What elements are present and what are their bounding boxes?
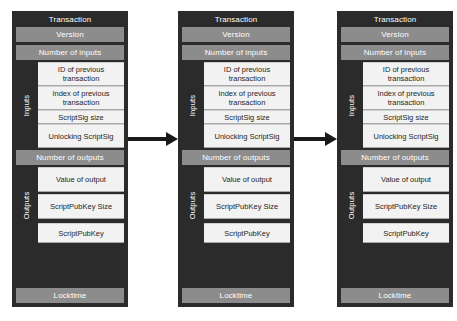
version-field: Version [16,27,124,42]
input-field-unlocking-scriptsig: Unlocking ScriptSig [38,124,124,148]
input-field-id-of-previous-transaction: ID of previous transaction [204,62,290,86]
arrow-shaft [294,137,325,141]
block-spacer [182,243,290,284]
number-of-outputs-field: Number of outputs [182,150,290,165]
arrow-shaft [128,137,166,141]
transaction-title: Transaction [341,14,449,26]
output-fields-list: Value of output ScriptPubKey Size Script… [38,167,124,243]
inputs-side-label: Inputs [341,62,363,148]
input-field-index-of-previous-transaction: Index of previous transaction [363,86,449,110]
input-field-scriptsig-size: ScriptSig size [38,110,124,124]
outputs-side-label-text: Outputs [189,191,198,219]
output-fields-list: Value of output ScriptPubKey Size Script… [204,167,290,243]
output-field-value-of-output: Value of output [38,167,124,192]
inputs-section: Inputs ID of previous transaction Index … [16,62,124,148]
block-spacer [341,243,449,284]
input-field-scriptsig-size: ScriptSig size [363,110,449,124]
inputs-side-label-text: Inputs [188,94,197,116]
output-field-scriptpubkey: ScriptPubKey [363,223,449,243]
transaction-block-2: Transaction Version Number of inputs Inp… [178,11,294,307]
outputs-side-label-text: Outputs [23,191,32,219]
locktime-field: Locktime [182,288,290,303]
number-of-outputs-field: Number of outputs [341,150,449,165]
transaction-block-3: Transaction Version Number of inputs Inp… [337,11,453,307]
transaction-title: Transaction [182,14,290,26]
number-of-inputs-field: Number of inputs [182,45,290,60]
arrow-head-icon [325,132,337,146]
output-fields-list: Value of output ScriptPubKey Size Script… [363,167,449,243]
number-of-inputs-field: Number of inputs [16,45,124,60]
arrow-head-icon [166,132,178,146]
output-field-scriptpubkey: ScriptPubKey [204,223,290,243]
input-field-unlocking-scriptsig: Unlocking ScriptSig [204,124,290,148]
locktime-field: Locktime [16,288,124,303]
version-field: Version [341,27,449,42]
outputs-side-label: Outputs [182,167,204,243]
input-fields-list: ID of previous transaction Index of prev… [363,62,449,148]
input-field-unlocking-scriptsig: Unlocking ScriptSig [363,124,449,148]
inputs-side-label: Inputs [16,62,38,148]
transaction-title: Transaction [16,14,124,26]
version-field: Version [182,27,290,42]
output-field-scriptpubkey-size: ScriptPubKey Size [204,194,290,219]
input-field-index-of-previous-transaction: Index of previous transaction [38,86,124,110]
block-spacer [16,243,124,284]
outputs-section: Outputs Value of output ScriptPubKey Siz… [182,167,290,243]
output-field-scriptpubkey: ScriptPubKey [38,223,124,243]
number-of-outputs-field: Number of outputs [16,150,124,165]
input-field-index-of-previous-transaction: Index of previous transaction [204,86,290,110]
output-field-value-of-output: Value of output [363,167,449,192]
input-field-scriptsig-size: ScriptSig size [204,110,290,124]
input-fields-list: ID of previous transaction Index of prev… [204,62,290,148]
output-field-scriptpubkey-size: ScriptPubKey Size [38,194,124,219]
arrow-block1-to-block2 [128,132,178,146]
inputs-side-label: Inputs [182,62,204,148]
number-of-inputs-field: Number of inputs [341,45,449,60]
outputs-side-label: Outputs [341,167,363,243]
arrow-block2-to-block3 [294,132,337,146]
outputs-side-label: Outputs [16,167,38,243]
input-field-id-of-previous-transaction: ID of previous transaction [38,62,124,86]
outputs-section: Outputs Value of output ScriptPubKey Siz… [341,167,449,243]
inputs-section: Inputs ID of previous transaction Index … [182,62,290,148]
input-field-id-of-previous-transaction: ID of previous transaction [363,62,449,86]
diagram-canvas: Transaction Version Number of inputs Inp… [0,0,457,321]
outputs-side-label-text: Outputs [348,191,357,219]
outputs-section: Outputs Value of output ScriptPubKey Siz… [16,167,124,243]
inputs-side-label-text: Inputs [347,94,356,116]
output-field-scriptpubkey-size: ScriptPubKey Size [363,194,449,219]
output-field-value-of-output: Value of output [204,167,290,192]
inputs-side-label-text: Inputs [22,94,31,116]
locktime-field: Locktime [341,288,449,303]
transaction-block-1: Transaction Version Number of inputs Inp… [12,11,128,307]
inputs-section: Inputs ID of previous transaction Index … [341,62,449,148]
input-fields-list: ID of previous transaction Index of prev… [38,62,124,148]
